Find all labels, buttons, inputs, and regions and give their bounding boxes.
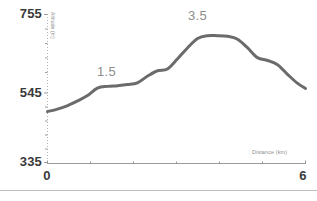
x-axis-title: Distance (km) [252,149,287,155]
data-annotation-2: 3.5 [188,8,207,23]
y-axis-tick-755: 755 [0,6,42,21]
y-axis-title: Altitude (m) [50,12,56,58]
x-axis-tick-6: 6 [292,168,314,183]
elevation-line-series [48,35,306,111]
y-axis-tick-545: 545 [0,85,42,100]
x-axis-tick-0: 0 [36,168,58,183]
y-axis-tick-335: 335 [0,154,42,169]
elevation-profile-chart: 755 545 335 0 6 Altitude (m) Distance (k… [0,0,317,201]
bottom-divider [0,190,317,191]
data-annotation-1: 1.5 [97,64,116,79]
y-axis-ticks [44,15,48,163]
